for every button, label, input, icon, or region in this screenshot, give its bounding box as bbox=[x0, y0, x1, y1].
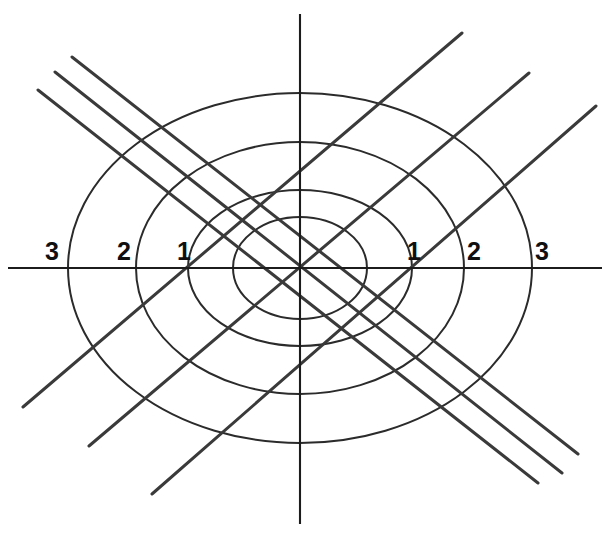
level-curve-diagram: 3 2 1 1 2 3 bbox=[0, 0, 610, 537]
x-tick-label-pos-1: 1 bbox=[407, 237, 421, 265]
diagonal-up-1 bbox=[23, 33, 462, 407]
x-tick-label-neg-2: 2 bbox=[117, 237, 131, 265]
figure-container: 3 2 1 1 2 3 bbox=[0, 0, 610, 537]
x-tick-label-pos-3: 3 bbox=[535, 237, 549, 265]
diagonal-up-3 bbox=[152, 106, 596, 494]
x-tick-label-pos-2: 2 bbox=[467, 237, 481, 265]
axis-group bbox=[8, 14, 602, 524]
diagonal-line-group bbox=[23, 33, 596, 494]
diagonal-down-2 bbox=[55, 72, 562, 473]
tick-label-group: 3 2 1 1 2 3 bbox=[45, 237, 549, 265]
x-tick-label-neg-3: 3 bbox=[45, 237, 59, 265]
x-tick-label-neg-1: 1 bbox=[177, 237, 191, 265]
